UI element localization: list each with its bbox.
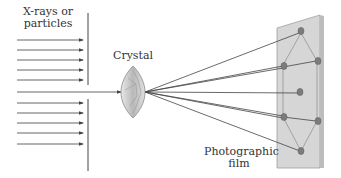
film-label: Photographic film (204, 146, 274, 170)
film-label-line2: film (204, 158, 274, 170)
crystal-label: Crystal (110, 50, 156, 62)
incoming-rays (17, 40, 121, 144)
source-label: X-rays or particles (18, 6, 78, 30)
crystal-icon (121, 66, 145, 118)
diffraction-diagram: X-rays or particles Crystal Photographic… (0, 0, 341, 178)
source-label-line2: particles (18, 18, 78, 30)
